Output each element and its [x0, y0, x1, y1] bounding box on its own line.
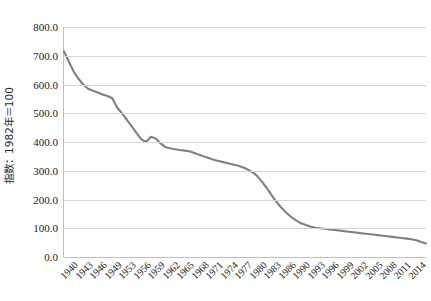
- y-axis-title-text: 指数：1982年＝100: [1, 87, 16, 184]
- y-axis-tick-label: 500.0: [33, 108, 58, 119]
- x-axis-tick-labels: 1940194319461949195319561959196219651968…: [63, 258, 425, 301]
- gridline: [64, 228, 426, 229]
- y-axis-title: 指数：1982年＝100: [0, 0, 16, 270]
- gridline: [64, 113, 426, 114]
- y-axis-tick-label: 800.0: [33, 22, 58, 33]
- series-polyline: [64, 51, 426, 243]
- y-axis-tick-label: 400.0: [33, 137, 58, 148]
- y-axis-tick-label: 200.0: [33, 194, 58, 205]
- gridline: [64, 171, 426, 172]
- y-axis-tick-label: 300.0: [33, 165, 58, 176]
- y-axis-tick-label: 0.0: [44, 252, 58, 263]
- gridline: [64, 200, 426, 201]
- plot-area: [63, 27, 426, 257]
- line-chart: 指数：1982年＝100 800.0700.0600.0500.0400.030…: [0, 0, 431, 301]
- y-axis-tick-label: 700.0: [33, 50, 58, 61]
- gridline: [64, 85, 426, 86]
- gridline: [64, 27, 426, 28]
- y-axis-tick-labels: 800.0700.0600.0500.0400.0300.0200.0100.0…: [16, 0, 62, 301]
- y-axis-tick-label: 100.0: [33, 223, 58, 234]
- gridline: [64, 142, 426, 143]
- gridline: [64, 56, 426, 57]
- y-axis-tick-label: 600.0: [33, 79, 58, 90]
